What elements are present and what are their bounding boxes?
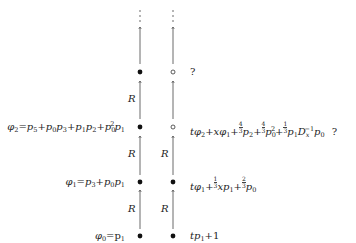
phi1-formula: φ1=p3+p0p1 <box>65 176 125 188</box>
edge-label-r: R <box>161 148 169 159</box>
edge-label-r: R <box>128 203 136 214</box>
edge-label-r: R <box>128 93 136 104</box>
unknown-marker: ? <box>332 126 337 137</box>
edge-label-r: R <box>161 203 169 214</box>
unknown-marker: ? <box>190 66 195 78</box>
right-formula-row2: tφ2+xφ1+43p2+43p02+13p1Dx−1p0 ? <box>190 121 337 138</box>
phi2-formula: φ2=p5+p0p3+p1p2+p02p1 <box>7 121 125 133</box>
right-formula-row1: tφ1+13xp1+23p0 <box>190 176 256 193</box>
recursion-diagram: R R R R R ? φ2=p5+p0p3+p1p2+p02p1 tφ2+xφ… <box>0 0 356 243</box>
continuation-dots <box>139 10 173 21</box>
phi0-formula: φ0=p1 <box>95 230 125 242</box>
edge-label-r: R <box>128 148 136 159</box>
right-formula-row0: tp1+1 <box>190 230 219 242</box>
